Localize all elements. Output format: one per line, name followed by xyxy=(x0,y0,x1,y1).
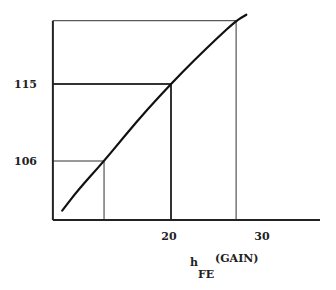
x-tick-label: 20 xyxy=(161,230,177,243)
data-curve xyxy=(62,15,246,211)
y-tick-label: 106 xyxy=(14,155,37,168)
x-tick-label: 30 xyxy=(254,230,270,243)
reference-lines xyxy=(53,21,236,220)
chart: 115106 2030 h FE (GAIN) xyxy=(0,0,336,290)
axes xyxy=(53,21,320,220)
x-tick-labels: 2030 xyxy=(161,230,270,243)
y-tick-labels: 115106 xyxy=(14,78,37,168)
x-axis-label-suffix: (GAIN) xyxy=(215,252,259,265)
y-tick-label: 115 xyxy=(14,78,37,91)
x-axis-label-subscript: FE xyxy=(198,268,214,281)
x-axis-label: h FE (GAIN) xyxy=(190,252,259,281)
x-axis-label-main: h xyxy=(190,256,198,269)
